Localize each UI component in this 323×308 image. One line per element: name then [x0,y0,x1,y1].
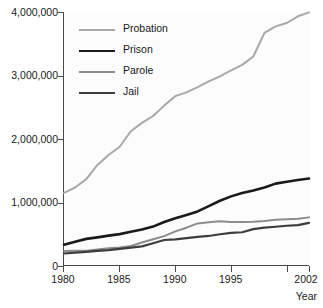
legend-item-probation: Probation [79,20,209,41]
x-tick-mark-1985 [119,266,120,272]
y-tick-label-1000000: 1,000,000 [11,197,58,208]
legend-label-prison: Prison [123,43,153,56]
legend-swatch-probation [79,29,115,31]
chart-legend: Probation Prison Parole Jail [79,20,209,104]
y-tick-label-2000000: 2,000,000 [11,134,58,145]
x-tick-mark-2002 [309,266,310,272]
y-tick-label-4000000: 4,000,000 [11,7,58,18]
x-tick-mark-1990 [175,266,176,272]
legend-item-jail: Jail [79,83,209,104]
x-tick-label-1980: 1980 [51,273,74,285]
x-tick-label-1995: 1995 [219,273,242,285]
series-line-prison [64,179,309,245]
legend-swatch-parole [79,71,115,73]
line-chart: 4,000,000 3,000,000 2,000,000 1,000,000 … [0,0,323,308]
legend-label-parole: Parole [123,64,153,77]
x-axis-title: Year [296,290,317,302]
legend-swatch-prison [79,50,115,52]
legend-label-probation: Probation [123,22,168,35]
legend-item-prison: Prison [79,41,209,62]
legend-item-parole: Parole [79,62,209,83]
x-tick-label-2002: 2002 [294,273,317,285]
y-axis-labels: 4,000,000 3,000,000 2,000,000 1,000,000 … [0,0,58,308]
y-tick-label-3000000: 3,000,000 [11,70,58,81]
series-line-parole [64,217,309,251]
x-tick-mark-1995 [231,266,232,272]
x-tick-label-1990: 1990 [163,273,186,285]
x-tick-mark-1980 [63,266,64,272]
legend-swatch-jail [79,92,115,94]
legend-label-jail: Jail [123,85,139,98]
x-tick-mark-2000 [287,266,288,272]
x-tick-label-1985: 1985 [107,273,130,285]
